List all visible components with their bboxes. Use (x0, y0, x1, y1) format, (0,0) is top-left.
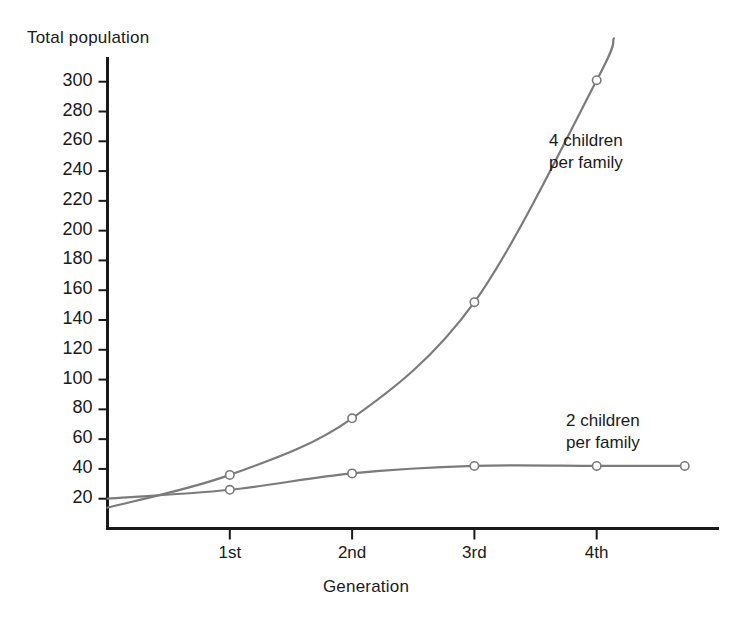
y-tick-label-120: 120 (21, 338, 93, 359)
series-annotation-four-children: 4 children per family (549, 130, 623, 174)
series-annotation-two-children-line2: per family (566, 432, 640, 454)
chart-plot-area (0, 0, 732, 622)
y-tick-label-180: 180 (21, 248, 93, 269)
y-tick-label-280: 280 (21, 100, 93, 121)
x-axis-title: Generation (0, 577, 732, 597)
y-tick-label-260: 260 (21, 129, 93, 150)
series-annotation-four-children-line1: 4 children (549, 130, 623, 152)
y-tick-label-80: 80 (21, 397, 93, 418)
y-tick-label-220: 220 (21, 189, 93, 210)
data-point-marker (593, 462, 601, 470)
x-tick-label-4th: 4th (562, 543, 632, 563)
series-annotation-two-children: 2 children per family (566, 410, 640, 454)
data-point-marker (348, 469, 356, 477)
series-annotation-four-children-line2: per family (549, 152, 623, 174)
data-point-marker (348, 414, 356, 422)
y-tick-label-140: 140 (21, 308, 93, 329)
y-tick-label-240: 240 (21, 159, 93, 180)
data-point-marker (470, 298, 478, 306)
series-line-four-children (108, 38, 614, 507)
data-point-marker (226, 486, 234, 494)
data-point-marker (226, 471, 234, 479)
y-tick-label-60: 60 (21, 427, 93, 448)
x-axis-ticks (230, 529, 597, 540)
chart-container: Total population 20406080100120140160180… (0, 0, 732, 622)
x-tick-label-3rd: 3rd (439, 543, 509, 563)
axis-lines (106, 57, 719, 529)
data-point-marker (593, 76, 601, 84)
data-point-marker (470, 462, 478, 470)
y-tick-label-20: 20 (21, 487, 93, 508)
y-tick-label-100: 100 (21, 368, 93, 389)
y-tick-label-160: 160 (21, 278, 93, 299)
y-tick-label-200: 200 (21, 219, 93, 240)
y-tick-label-300: 300 (21, 70, 93, 91)
series-annotation-two-children-line1: 2 children (566, 410, 640, 432)
x-tick-label-2nd: 2nd (317, 543, 387, 563)
y-tick-label-40: 40 (21, 457, 93, 478)
data-point-marker (681, 462, 689, 470)
x-tick-label-1st: 1st (195, 543, 265, 563)
